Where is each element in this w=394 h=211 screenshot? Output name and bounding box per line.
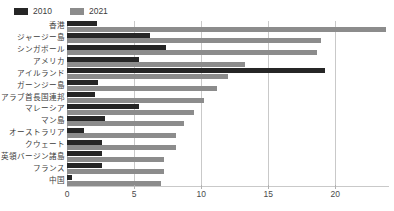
category-label: クウェート	[25, 141, 65, 149]
category-axis-labels: 香港ジャージー島シンガポールアメリカアイルランドガーンジー島アラブ首長国連邦マレ…	[0, 21, 65, 187]
bar-group	[67, 128, 389, 140]
tick-mark-20	[335, 185, 336, 189]
tick-label-5: 5	[132, 189, 137, 199]
bar-chart: 2010 2021 香港ジャージー島シンガポールアメリカアイルランドガーンジー島…	[0, 0, 394, 211]
bar-2021	[67, 145, 176, 150]
category-label: アメリカ	[33, 58, 65, 66]
bar-2021	[67, 121, 184, 126]
bar-2021	[67, 74, 228, 79]
category-label: 英領バージン諸島	[1, 153, 65, 161]
category-label: アイルランド	[17, 70, 65, 78]
bar-2021	[67, 110, 194, 115]
legend-item-2021: 2021	[70, 7, 108, 16]
legend-label-2010: 2010	[33, 7, 52, 16]
category-label: 香港	[49, 22, 65, 30]
bar-2021	[67, 50, 317, 55]
bar-group	[67, 151, 389, 163]
bar-2021	[67, 86, 217, 91]
category-label: アラブ首長国連邦	[1, 94, 65, 102]
bar-2010	[67, 128, 84, 133]
tick-label-20: 20	[331, 189, 340, 199]
category-label: 中国	[49, 177, 65, 185]
value-axis-tick-labels: 05101520	[67, 189, 389, 203]
category-label: オーストラリア	[9, 129, 65, 137]
category-label: マン島	[41, 117, 65, 125]
category-label: マレーシア	[25, 105, 65, 113]
bar-2021	[67, 169, 164, 174]
bar-group	[67, 80, 389, 92]
bar-2010	[67, 116, 105, 121]
bar-group	[67, 140, 389, 152]
bar-2021	[67, 181, 161, 186]
bar-group	[67, 21, 389, 33]
bar-2010	[67, 104, 139, 109]
tick-label-10: 10	[196, 189, 205, 199]
bar-2021	[67, 98, 204, 103]
category-label: ジャージー島	[17, 34, 65, 42]
bar-group	[67, 104, 389, 116]
category-label: フランス	[33, 165, 65, 173]
legend-item-2010: 2010	[14, 7, 52, 16]
tick-mark-10	[201, 185, 202, 189]
bar-2010	[67, 80, 98, 85]
bar-group	[67, 68, 389, 80]
legend-swatch-2021	[70, 8, 84, 15]
bar-2021	[67, 62, 245, 67]
bar-2010	[67, 33, 150, 38]
bar-group	[67, 163, 389, 175]
bar-2010	[67, 175, 72, 180]
bar-group	[67, 33, 389, 45]
legend-swatch-2010	[14, 8, 28, 15]
category-label: シンガポール	[17, 46, 65, 54]
chart-legend: 2010 2021	[14, 5, 108, 17]
bar-2010	[67, 57, 139, 62]
bar-2010	[67, 151, 102, 156]
tick-label-15: 15	[264, 189, 273, 199]
bar-2010	[67, 140, 102, 145]
bar-group	[67, 57, 389, 69]
bar-2010	[67, 92, 95, 97]
bar-2010	[67, 68, 325, 73]
bar-2010	[67, 45, 166, 50]
category-label: ガーンジー島	[17, 82, 65, 90]
bar-2010	[67, 163, 102, 168]
plot-area	[67, 21, 389, 187]
tick-label-0: 0	[65, 189, 70, 199]
bar-2021	[67, 157, 164, 162]
bar-2010	[67, 21, 97, 26]
bar-group	[67, 92, 389, 104]
tick-mark-15	[268, 185, 269, 189]
tick-mark-5	[134, 185, 135, 189]
bar-rows	[67, 21, 389, 187]
bar-group	[67, 175, 389, 187]
bar-2021	[67, 133, 176, 138]
bar-group	[67, 45, 389, 57]
legend-label-2021: 2021	[89, 7, 108, 16]
bar-2021	[67, 38, 321, 43]
bar-2021	[67, 27, 386, 32]
bar-group	[67, 116, 389, 128]
